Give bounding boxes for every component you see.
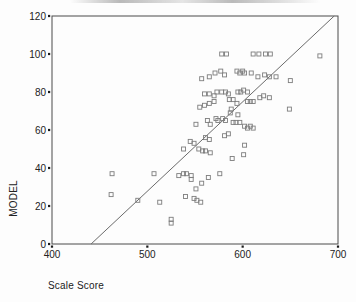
x-tick-mark	[337, 246, 339, 248]
data-point-marker	[207, 75, 211, 79]
data-point-marker	[251, 52, 255, 56]
y-tick-mark	[48, 15, 50, 17]
data-point-marker	[158, 200, 162, 204]
data-point-marker	[194, 122, 198, 126]
plot-frame	[52, 16, 338, 244]
data-point-marker	[194, 187, 198, 191]
y-tick-label: 60	[35, 125, 47, 136]
y-tick-label: 100	[29, 49, 46, 60]
x-axis-ticks: 400500600700	[44, 246, 347, 261]
data-point-marker	[274, 75, 278, 79]
data-point-marker	[287, 107, 291, 111]
regression-line	[91, 16, 334, 244]
data-point-marker	[208, 151, 212, 155]
y-tick-label: 120	[29, 11, 46, 22]
data-point-marker	[203, 92, 207, 96]
data-point-marker	[152, 172, 156, 176]
y-axis-title: MODEL	[8, 167, 19, 231]
y-axis-ticks: 020406080100120	[29, 11, 50, 250]
y-tick-mark	[48, 91, 50, 93]
data-point-marker	[207, 101, 211, 105]
data-point-marker	[230, 157, 234, 161]
x-tick-mark	[51, 246, 53, 248]
y-tick-mark	[48, 53, 50, 55]
data-point-marker	[318, 54, 322, 58]
y-tick-label: 0	[40, 239, 46, 250]
data-point-marker	[213, 71, 217, 75]
data-point-marker	[184, 172, 188, 176]
data-point-marker	[177, 174, 181, 178]
data-point-marker	[198, 105, 202, 109]
data-point-marker	[256, 75, 260, 79]
data-point-marker	[264, 52, 268, 56]
data-point-marker	[183, 195, 187, 199]
y-tick-mark	[48, 205, 50, 207]
data-point-marker	[236, 90, 240, 94]
data-point-marker	[245, 100, 249, 104]
data-point-marker	[203, 103, 207, 107]
y-tick-mark	[48, 167, 50, 169]
data-point-marker	[251, 100, 255, 104]
data-point-marker	[257, 52, 261, 56]
data-point-marker	[249, 71, 253, 75]
y-tick-label: 20	[35, 201, 47, 212]
x-tick-label: 700	[330, 249, 347, 260]
data-point-marker	[288, 79, 292, 83]
data-point-marker	[224, 52, 228, 56]
data-point-marker	[203, 149, 207, 153]
data-point-marker	[109, 193, 113, 197]
data-point-marker	[218, 172, 222, 176]
x-tick-label: 400	[44, 249, 61, 260]
data-point-marker	[212, 100, 216, 104]
data-point-marker	[200, 77, 204, 81]
y-tick-mark	[48, 243, 50, 245]
data-point-marker	[182, 172, 186, 176]
data-point-marker	[207, 92, 211, 96]
x-axis-title: Scale Score	[48, 280, 104, 291]
x-tick-mark	[242, 246, 244, 248]
data-point-marker	[182, 147, 186, 151]
x-tick-mark	[146, 246, 148, 248]
data-point-marker	[248, 100, 252, 104]
y-tick-mark	[48, 129, 50, 131]
data-point-marker	[267, 96, 271, 100]
data-points	[109, 52, 322, 225]
data-point-marker	[200, 181, 204, 185]
data-point-marker	[236, 113, 240, 117]
x-tick-label: 500	[139, 249, 156, 260]
y-tick-label: 80	[35, 87, 47, 98]
y-tick-label: 40	[35, 163, 47, 174]
data-point-marker	[242, 153, 246, 157]
data-point-marker	[110, 172, 114, 176]
data-point-marker	[243, 143, 247, 147]
data-point-marker	[231, 120, 235, 124]
scatterplot-figure: 400500600700020406080100120 MODEL Scale …	[0, 0, 356, 302]
data-point-marker	[263, 73, 267, 77]
scatter-plot-canvas: 400500600700020406080100120	[0, 0, 356, 302]
data-point-marker	[220, 52, 224, 56]
data-point-marker	[206, 176, 210, 180]
x-tick-label: 600	[234, 249, 251, 260]
data-point-marker	[268, 52, 272, 56]
